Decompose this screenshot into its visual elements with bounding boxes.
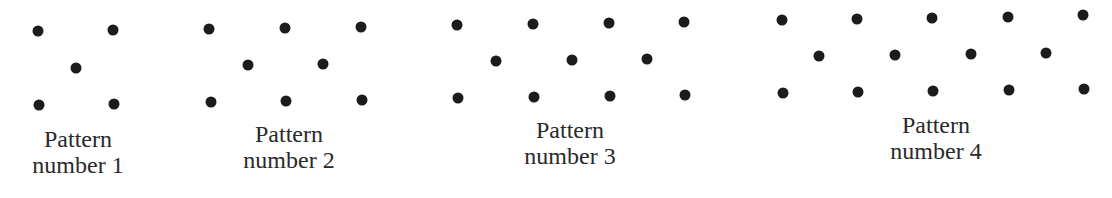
dot-icon [852,14,863,25]
dot-icon [927,13,938,24]
dot-icon [1003,12,1014,23]
dot-icon [1079,84,1090,95]
dot-icon [890,50,901,61]
pattern-4: Pattern number 4 [0,0,1112,198]
dot-icon [1004,85,1015,96]
dot-icon [1041,48,1052,59]
dot-icon [778,88,789,99]
pattern-label-line1: Pattern [890,112,981,138]
dot-icon [928,86,939,97]
dot-icon [853,87,864,98]
pattern-label-line2: number 4 [890,138,981,164]
dot-icon [777,15,788,26]
dot-icon [1078,10,1089,21]
pattern-label: Pattern number 4 [890,112,981,164]
dot-icon [814,51,825,62]
dot-pattern-figure: Pattern number 1 Pattern number 2 Patter… [0,0,1112,198]
dot-icon [966,49,977,60]
